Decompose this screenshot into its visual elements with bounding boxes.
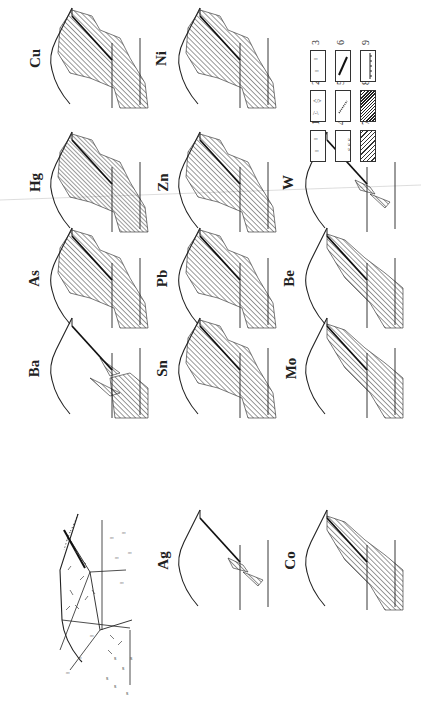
legend-swatch-dotted-vein [335,90,351,122]
svg-text:s: s [114,683,117,689]
panel-ni: Ni [158,8,278,108]
svg-text:ᵒᵒ: ᵒᵒ [115,555,119,561]
svg-text:ᵒᵒ: ᵒᵒ [314,56,318,62]
panel-sn: Sn [158,318,278,418]
svg-text:s: s [126,690,129,696]
legend-swatch-dots-clusters: ᵒᵒᵒᵒ [310,50,326,82]
svg-text:</>: </> [313,98,322,104]
panel-ba: Ba [30,318,150,418]
panel-ag: Ag [158,510,278,610]
panel-zn: Zn [158,132,278,232]
svg-text:ᵒᵒ: ᵒᵒ [315,148,319,154]
svg-text:ᵒᵒ: ᵒᵒ [315,68,319,74]
svg-text:/-\: /-\ [313,110,319,116]
svg-text:ᵒᵒ: ᵒᵒ [78,655,82,661]
panel-co: Co [285,510,405,610]
legend: ᵒᵒᵒᵒ1</>/-\2ᵒᵒᵒᵒ3S S S456789 [310,35,390,165]
svg-text:s: s [106,675,109,681]
legend-swatch-thick-fault-line [335,50,351,82]
panel-be: Be [285,228,405,328]
panel-pb: Pb [158,228,278,328]
legend-number: 3 [310,40,321,45]
svg-text:ᵒᵒ: ᵒᵒ [90,633,94,639]
legend-number: 6 [335,40,346,45]
panel-mo: Mo [285,318,405,418]
svg-text:ᵒᵒ: ᵒᵒ [122,530,126,536]
svg-text:s: s [122,665,125,671]
svg-text:ᵒᵒ: ᵒᵒ [128,550,132,556]
legend-swatch-dense-hatch [360,90,376,122]
panel-cu: Cu [30,8,150,108]
svg-text:ᵒᵒ: ᵒᵒ [314,136,318,142]
legend-swatch-sparse-hatch [360,130,376,162]
svg-text:ᵒᵒ: ᵒᵒ [110,535,114,541]
panel-hg: Hg [30,132,150,232]
legend-swatch-triangles-dots: ᵒᵒᵒᵒ [310,130,326,162]
svg-text:ᵒᵒ: ᵒᵒ [66,670,70,676]
legend-swatch-dashes-brackets: </>/-\ [310,90,326,122]
svg-text:s: s [114,655,117,661]
svg-text:s: s [130,655,133,661]
panel-as: As [30,228,150,328]
geologic-cross-section: ᵒᵒᵒᵒᵒᵒᵒᵒ ᵒᵒᵒᵒᵒᵒᵒᵒ ssssss [30,510,140,705]
legend-swatch-ticked-line [360,50,376,82]
svg-text:S S S: S S S [347,138,350,151]
svg-text:ᵒᵒ: ᵒᵒ [120,580,124,586]
legend-swatch-s-symbols: S S S [335,130,351,162]
legend-number: 9 [360,40,371,45]
